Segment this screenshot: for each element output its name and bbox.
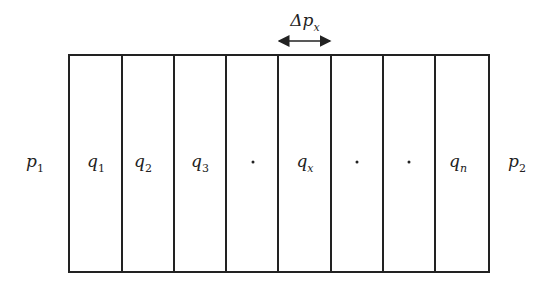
cell-label-q3: q3 [191,151,209,174]
width-label-delta-px: Δpx [290,10,319,33]
cell-label-qn: qn [449,151,467,174]
pressure-cells-diagram [0,0,555,293]
cell-label-q1: q1 [87,151,105,174]
cell-dividers [122,55,435,272]
pressure-label-p2: p2 [508,151,526,174]
cell-label-q2: q2 [134,151,152,174]
cell-label-qx: qx [296,151,313,174]
ellipsis-dot [252,161,255,164]
ellipsis-dot [356,161,359,164]
ellipsis-dot [408,161,411,164]
pressure-label-p1: p1 [26,151,44,174]
